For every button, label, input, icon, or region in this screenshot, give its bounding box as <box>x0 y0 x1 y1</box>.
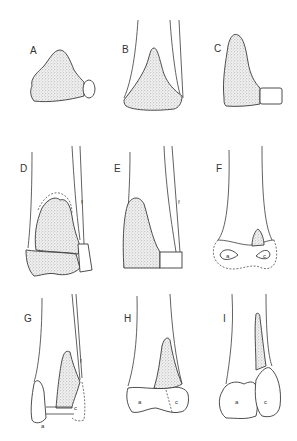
fibula-fragment-e <box>160 252 182 268</box>
panel-i: I a c <box>219 294 280 419</box>
fibula-fragment-c <box>260 88 282 104</box>
fragment-f <box>252 229 264 246</box>
malleolus-fragment-g <box>56 351 80 408</box>
malleolus-fragment-i <box>255 313 266 370</box>
panel-label-i: I <box>223 313 226 324</box>
tibia-shaft-right-f <box>262 146 272 240</box>
panel-b: B <box>122 20 183 110</box>
panel-label-c: C <box>214 43 221 54</box>
plafond-fragment-d <box>26 250 80 276</box>
panel-e: E f <box>114 146 182 268</box>
tibia-shaft-left-d <box>28 152 32 248</box>
panel-a: A <box>30 45 95 102</box>
tibia-shaft-right-b <box>170 20 180 94</box>
panel-h: H a c <box>124 294 189 413</box>
panel-label-d: D <box>20 163 27 174</box>
plafond-line-f <box>218 240 274 245</box>
fibula-line-d <box>80 146 84 244</box>
panel-c: C <box>214 34 282 106</box>
annotation-a-g: a <box>41 423 45 429</box>
malleolus-fragment-e <box>123 198 160 268</box>
panel-d: D f <box>20 146 92 276</box>
tibia-shaft-right-i <box>266 294 272 366</box>
panel-label-a: A <box>30 45 37 56</box>
annotation-c-f: c <box>263 253 266 259</box>
tibia-shaft-left-h <box>128 296 137 386</box>
panel-label-b: B <box>122 44 129 55</box>
annotation-f-g: f <box>80 358 82 364</box>
figure-canvas: A B C D f E f F <box>0 0 297 441</box>
panel-label-g: G <box>24 313 32 324</box>
panel-g: G f c a <box>24 294 85 429</box>
talus-fragment-a <box>31 50 84 102</box>
panel-f: F a c <box>213 146 276 269</box>
tibia-fragment-d <box>35 198 80 254</box>
medial-malleolus-g <box>31 381 46 423</box>
talus-a-i <box>219 382 257 419</box>
panel-label-f: F <box>216 163 222 174</box>
tibia-shaft-left-g <box>34 298 42 382</box>
talus-c-i <box>255 368 280 417</box>
annotation-c-g: c <box>74 405 77 411</box>
fibula-fragment-d <box>78 244 92 272</box>
talus-h <box>127 387 189 412</box>
fibula-fragment-a <box>83 80 95 98</box>
tibia-shaft-right-e <box>164 146 176 252</box>
annotation-f-e: f <box>178 199 180 205</box>
panel-label-e: E <box>114 163 121 174</box>
panel-label-h: H <box>124 313 131 324</box>
malleolus-fragment-c <box>223 34 260 106</box>
annotation-c-i: c <box>264 399 267 405</box>
fibula-line-b <box>179 20 183 98</box>
tibia-shaft-left-i <box>226 294 233 384</box>
annotation-c-h: c <box>175 399 178 405</box>
